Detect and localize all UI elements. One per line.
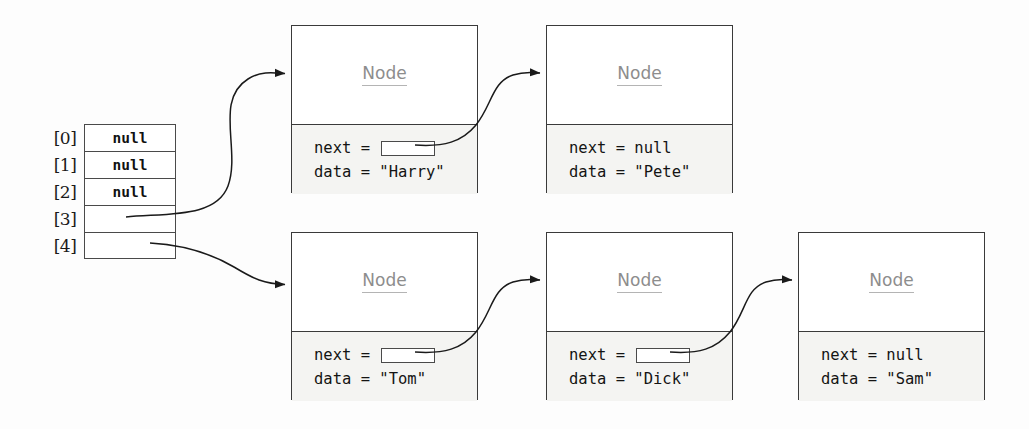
array-cell-0[interactable]: null <box>84 124 176 151</box>
array-index-label: [1] <box>46 151 84 178</box>
array-cell-1[interactable]: null <box>84 151 176 178</box>
node-dick[interactable]: Node next = data = "Dick" <box>546 232 733 400</box>
node-body: next = data = "Harry" <box>292 124 477 194</box>
next-pointer-box[interactable] <box>381 141 435 156</box>
array-index-label: [0] <box>46 124 84 151</box>
data-field: data = "Pete" <box>569 160 732 184</box>
node-type-label: Node <box>869 271 913 293</box>
next-field: next = null <box>821 343 984 367</box>
data-field: data = "Harry" <box>314 160 477 184</box>
data-label: data = <box>314 163 379 181</box>
next-field: next = <box>314 343 477 367</box>
next-field: next = <box>569 343 732 367</box>
node-tom[interactable]: Node next = data = "Tom" <box>291 232 478 400</box>
node-header: Node <box>292 26 477 124</box>
node-header: Node <box>547 26 732 124</box>
array-index-label: [3] <box>46 205 84 232</box>
array-row: [0] null <box>46 124 176 151</box>
array-row: [2] null <box>46 178 176 205</box>
array-cell-4[interactable] <box>84 232 176 259</box>
node-header: Node <box>547 233 732 331</box>
array-row: [1] null <box>46 151 176 178</box>
node-type-label: Node <box>362 271 406 293</box>
next-pointer-box[interactable] <box>381 348 435 363</box>
node-type-label: Node <box>617 271 661 293</box>
array-cell-3[interactable] <box>84 205 176 232</box>
data-label: data = <box>314 370 379 388</box>
array-index-label: [2] <box>46 178 84 205</box>
bucket-array: [0] null [1] null [2] null [3] [4] <box>46 124 176 259</box>
next-label: next = <box>821 346 886 364</box>
node-sam[interactable]: Node next = null data = "Sam" <box>798 232 985 400</box>
data-value: "Harry" <box>379 163 444 181</box>
next-field: next = <box>314 136 477 160</box>
node-body: next = null data = "Sam" <box>799 331 984 401</box>
array-row: [4] <box>46 232 176 259</box>
node-header: Node <box>292 233 477 331</box>
next-label: next = <box>314 346 379 364</box>
node-body: next = null data = "Pete" <box>547 124 732 194</box>
data-value: "Pete" <box>634 163 690 181</box>
next-label: next = <box>569 139 634 157</box>
next-label: next = <box>314 139 379 157</box>
node-header: Node <box>799 233 984 331</box>
data-value: "Sam" <box>886 370 933 388</box>
next-value: null <box>634 139 671 157</box>
diagram-canvas: [0] null [1] null [2] null [3] [4] Node … <box>0 0 1029 429</box>
node-type-label: Node <box>362 64 406 86</box>
array-cell-2[interactable]: null <box>84 178 176 205</box>
data-label: data = <box>821 370 886 388</box>
node-body: next = data = "Tom" <box>292 331 477 401</box>
data-value: "Tom" <box>379 370 426 388</box>
node-pete[interactable]: Node next = null data = "Pete" <box>546 25 733 193</box>
node-body: next = data = "Dick" <box>547 331 732 401</box>
array-index-label: [4] <box>46 232 84 259</box>
data-label: data = <box>569 163 634 181</box>
data-field: data = "Sam" <box>821 367 984 391</box>
data-field: data = "Dick" <box>569 367 732 391</box>
next-value: null <box>886 346 923 364</box>
next-pointer-box[interactable] <box>636 348 690 363</box>
next-label: next = <box>569 346 634 364</box>
array-row: [3] <box>46 205 176 232</box>
data-label: data = <box>569 370 634 388</box>
data-field: data = "Tom" <box>314 367 477 391</box>
next-field: next = null <box>569 136 732 160</box>
node-type-label: Node <box>617 64 661 86</box>
data-value: "Dick" <box>634 370 690 388</box>
node-harry[interactable]: Node next = data = "Harry" <box>291 25 478 193</box>
